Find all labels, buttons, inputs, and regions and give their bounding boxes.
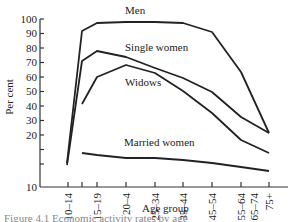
x-tick-label-overlay (0, 0, 293, 222)
